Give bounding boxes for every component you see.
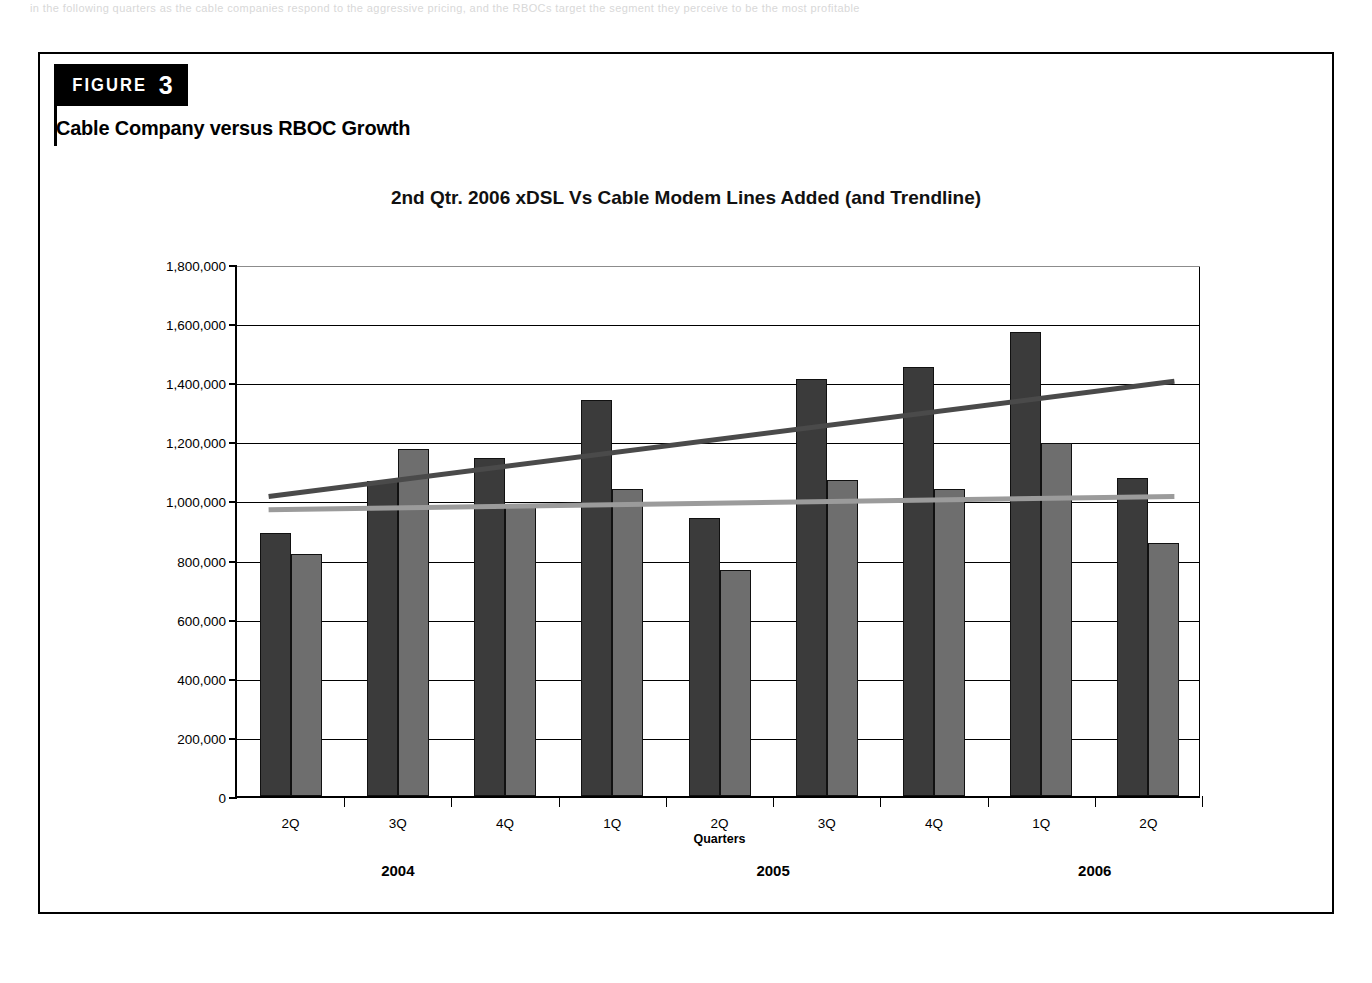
y-axis-tick-mark — [229, 561, 237, 563]
y-axis-tick-label: 1,000,000 — [166, 495, 226, 510]
bar-cable-2 — [505, 506, 536, 796]
bar-xdsl-4 — [689, 518, 720, 796]
x-axis-tick-label: 1Q — [1032, 816, 1050, 831]
y-axis-tick-mark — [229, 383, 237, 385]
bar-cable-0 — [291, 554, 322, 796]
page-background-text: in the following quarters as the cable c… — [30, 2, 1342, 16]
y-axis-tick-mark — [229, 797, 237, 799]
bar-xdsl-3 — [581, 400, 612, 796]
x-axis-separator — [1202, 796, 1203, 807]
x-axis-tick-label: 4Q — [496, 816, 514, 831]
y-axis-tick-label: 1,600,000 — [166, 318, 226, 333]
bar-xdsl-8 — [1117, 478, 1148, 796]
y-axis-tick-label: 1,800,000 — [166, 259, 226, 274]
y-axis-tick-label: 1,400,000 — [166, 377, 226, 392]
x-axis-tick-label: 4Q — [925, 816, 943, 831]
x-axis-tick-label: 2Q — [282, 816, 300, 831]
y-axis-tick-label: 0 — [218, 791, 226, 806]
bar-xdsl-7 — [1010, 332, 1041, 796]
y-axis-tick-label: 400,000 — [177, 672, 226, 687]
y-axis-tick-mark — [229, 442, 237, 444]
chart-title: 2nd Qtr. 2006 xDSL Vs Cable Modem Lines … — [40, 187, 1332, 209]
year-group-label: 2004 — [381, 862, 414, 879]
bar-cable-6 — [934, 489, 965, 796]
y-axis-tick-mark — [229, 620, 237, 622]
y-axis-tick-mark — [229, 738, 237, 740]
x-axis-separator — [988, 796, 989, 807]
figure-badge-number: 3 — [159, 73, 173, 98]
chart-plot-area: 1,800,0001,600,0001,400,0001,200,0001,00… — [235, 266, 1200, 798]
x-axis-tick-label: 2Q — [710, 816, 728, 831]
x-axis-separator — [451, 796, 452, 807]
bar-cable-4 — [720, 570, 751, 796]
figure-frame: FIGURE 3 Cable Company versus RBOC Growt… — [38, 52, 1334, 914]
y-axis-tick-label: 200,000 — [177, 731, 226, 746]
x-axis-tick-label: 1Q — [603, 816, 621, 831]
figure-badge-word: FIGURE — [73, 75, 148, 96]
x-axis-tick-label: 3Q — [818, 816, 836, 831]
x-axis-separator — [559, 796, 560, 807]
y-axis-tick-mark — [229, 679, 237, 681]
bar-cable-7 — [1041, 443, 1072, 796]
figure-badge: FIGURE 3 — [54, 64, 188, 106]
gridline — [237, 325, 1200, 326]
y-axis-tick-mark — [229, 265, 237, 267]
bar-xdsl-1 — [367, 481, 398, 796]
x-axis-separator — [880, 796, 881, 807]
year-group-label: 2005 — [756, 862, 789, 879]
y-axis-tick-label: 800,000 — [177, 554, 226, 569]
bar-cable-5 — [827, 480, 858, 796]
gridline — [237, 384, 1200, 385]
bar-cable-1 — [398, 449, 429, 796]
chart-plot-wrapper: 1,800,0001,600,0001,400,0001,200,0001,00… — [235, 266, 1200, 798]
y-axis-tick-mark — [229, 501, 237, 503]
x-axis-separator — [666, 796, 667, 807]
year-group-label: 2006 — [1078, 862, 1111, 879]
bar-cable-8 — [1148, 543, 1179, 796]
figure-subtitle: Cable Company versus RBOC Growth — [56, 116, 410, 140]
gridline — [237, 266, 1200, 267]
bar-xdsl-5 — [796, 379, 827, 796]
bar-xdsl-0 — [260, 533, 291, 796]
y-axis-tick-label: 600,000 — [177, 613, 226, 628]
bar-xdsl-2 — [474, 458, 505, 796]
y-axis-tick-mark — [229, 324, 237, 326]
y-axis-tick-label: 1,200,000 — [166, 436, 226, 451]
bar-cable-3 — [612, 489, 643, 796]
plot-right-edge — [1199, 266, 1200, 796]
x-axis-separator — [773, 796, 774, 807]
x-axis-tick-label: 3Q — [389, 816, 407, 831]
x-axis-separator — [344, 796, 345, 807]
bar-xdsl-6 — [903, 367, 934, 796]
x-axis-separator — [1095, 796, 1096, 807]
x-axis-tick-label: 2Q — [1139, 816, 1157, 831]
x-axis-title: Quarters — [693, 832, 745, 846]
